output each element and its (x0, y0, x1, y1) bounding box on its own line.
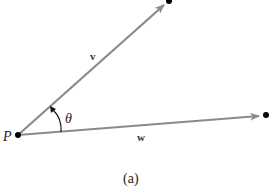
vector-diagram: P θ v w (a) (0, 0, 270, 195)
vector-v (18, 0, 172, 135)
vector-w-label: w (137, 131, 145, 143)
vector-v-line (18, 5, 164, 135)
vector-v-endpoint (166, 0, 172, 4)
vector-w-endpoint (263, 112, 269, 118)
angle-label: θ (65, 111, 72, 126)
origin-label: P (2, 129, 12, 144)
caption: (a) (123, 171, 139, 187)
angle-arc (50, 106, 61, 132)
vector-v-label: v (90, 50, 96, 62)
origin-point (15, 132, 21, 138)
